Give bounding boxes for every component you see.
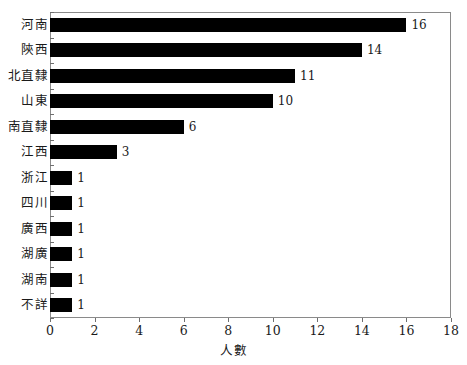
chart-row: 四川 1	[0, 191, 467, 217]
x-axis-tick	[406, 318, 407, 322]
bar	[50, 171, 72, 185]
category-label: 南直隸	[8, 121, 48, 134]
category-label: 湖南	[21, 274, 48, 287]
category-label: 陝西	[21, 44, 48, 57]
category-label: 北直隸	[8, 70, 48, 83]
bar-wrapper	[50, 145, 117, 159]
bar	[50, 222, 72, 236]
y-axis-tick	[50, 38, 54, 39]
x-axis-title: 人數	[0, 345, 467, 358]
bar-chart: 河南 16 陝西 14 北直隸 11 山東 10 南直隸 6 江西 3 浙江 1…	[0, 0, 467, 365]
y-axis-tick	[50, 63, 54, 64]
x-axis-tick	[317, 318, 318, 322]
chart-row: 湖廣 1	[0, 242, 467, 268]
bar-wrapper	[50, 298, 72, 312]
chart-row: 北直隸 11	[0, 63, 467, 89]
x-axis-tick-label: 18	[443, 325, 459, 338]
bar	[50, 94, 273, 108]
bar-wrapper	[50, 196, 72, 210]
x-axis-tick-label: 4	[135, 325, 143, 338]
y-axis-tick	[50, 216, 54, 217]
chart-row: 山東 10	[0, 89, 467, 115]
y-axis-tick	[50, 191, 54, 192]
chart-row: 河南 16	[0, 12, 467, 38]
bar-value-label: 10	[278, 95, 293, 107]
bar-wrapper	[50, 94, 273, 108]
bar-value-label: 6	[189, 121, 197, 133]
bar-wrapper	[50, 69, 295, 83]
y-axis-tick	[50, 12, 54, 13]
bar-value-label: 14	[367, 44, 382, 56]
bar-value-label: 3	[122, 146, 130, 158]
x-axis-tick	[95, 318, 96, 322]
bar	[50, 145, 117, 159]
bar	[50, 273, 72, 287]
bar-wrapper	[50, 120, 184, 134]
bar-wrapper	[50, 43, 362, 57]
x-axis-tick-label: 8	[224, 325, 232, 338]
bar-wrapper	[50, 247, 72, 261]
x-axis-tick-label: 0	[46, 325, 54, 338]
bar-value-label: 11	[300, 70, 315, 82]
x-axis-tick-label: 2	[91, 325, 99, 338]
chart-row: 陝西 14	[0, 38, 467, 64]
bar-value-label: 1	[77, 274, 85, 286]
category-label: 廣西	[21, 223, 48, 236]
category-label: 湖廣	[21, 248, 48, 261]
bar-value-label: 1	[77, 248, 85, 260]
x-axis-tick-label: 16	[398, 325, 414, 338]
y-axis-tick	[50, 114, 54, 115]
y-axis-tick	[50, 165, 54, 166]
y-axis-tick	[50, 267, 54, 268]
bar-value-label: 1	[77, 197, 85, 209]
chart-row: 浙江 1	[0, 165, 467, 191]
x-axis-tick	[139, 318, 140, 322]
bar-wrapper	[50, 273, 72, 287]
chart-row: 不詳 1	[0, 293, 467, 319]
bar	[50, 298, 72, 312]
bar-value-label: 1	[77, 223, 85, 235]
bar-value-label: 1	[77, 299, 85, 311]
y-axis-tick	[50, 140, 54, 141]
category-label: 江西	[21, 146, 48, 159]
x-axis-tick	[451, 318, 452, 322]
category-label: 浙江	[21, 172, 48, 185]
chart-row: 南直隸 6	[0, 114, 467, 140]
chart-row: 廣西 1	[0, 216, 467, 242]
chart-row: 湖南 1	[0, 267, 467, 293]
x-axis-tick-label: 12	[309, 325, 325, 338]
bar	[50, 120, 184, 134]
bar-value-label: 16	[411, 19, 426, 31]
bar-wrapper	[50, 18, 406, 32]
category-label: 河南	[21, 19, 48, 32]
x-axis-tick-label: 6	[180, 325, 188, 338]
x-axis-tick	[228, 318, 229, 322]
category-label: 山東	[21, 95, 48, 108]
x-axis-tick	[184, 318, 185, 322]
y-axis-tick	[50, 293, 54, 294]
x-axis-tick	[362, 318, 363, 322]
bar	[50, 43, 362, 57]
bar-wrapper	[50, 171, 72, 185]
chart-row: 江西 3	[0, 140, 467, 166]
category-label: 不詳	[21, 299, 48, 312]
y-axis-tick	[50, 242, 54, 243]
x-axis-tick	[273, 318, 274, 322]
bar	[50, 196, 72, 210]
x-axis-tick-label: 14	[354, 325, 370, 338]
bar-wrapper	[50, 222, 72, 236]
bar	[50, 18, 406, 32]
category-label: 四川	[21, 197, 48, 210]
x-axis-tick	[50, 318, 51, 322]
bar	[50, 247, 72, 261]
bar	[50, 69, 295, 83]
bar-value-label: 1	[77, 172, 85, 184]
x-axis-tick-label: 10	[265, 325, 281, 338]
y-axis-tick	[50, 89, 54, 90]
